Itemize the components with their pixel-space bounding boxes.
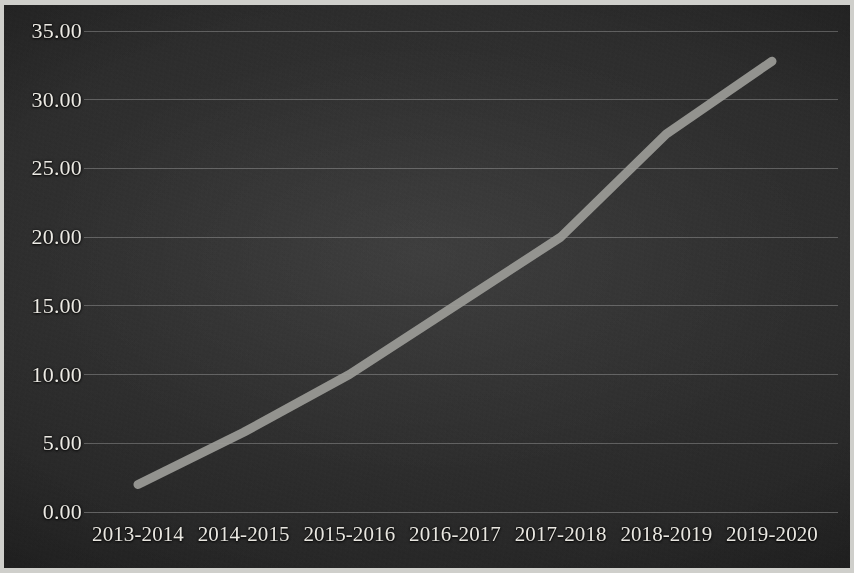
line-series-layer	[0, 0, 854, 573]
photo-border-left	[0, 0, 4, 573]
x-axis-tick-label: 2016-2017	[409, 522, 501, 546]
chart-screenshot: 0.005.0010.0015.0020.0025.0030.0035.00 2…	[0, 0, 854, 573]
photo-border-right	[850, 0, 854, 573]
photo-border-top	[0, 0, 854, 5]
x-axis-tick-label: 2017-2018	[515, 522, 607, 546]
data-line	[138, 61, 772, 484]
x-axis-tick-label: 2014-2015	[198, 522, 290, 546]
x-axis-tick-label: 2018-2019	[620, 522, 712, 546]
photo-border-bottom	[0, 568, 854, 573]
x-axis-tick-label: 2015-2016	[303, 522, 395, 546]
x-axis-tick-label: 2019-2020	[726, 522, 818, 546]
x-axis-tick-label: 2013-2014	[92, 522, 184, 546]
plot-area: 0.005.0010.0015.0020.0025.0030.0035.00 2…	[0, 0, 854, 573]
